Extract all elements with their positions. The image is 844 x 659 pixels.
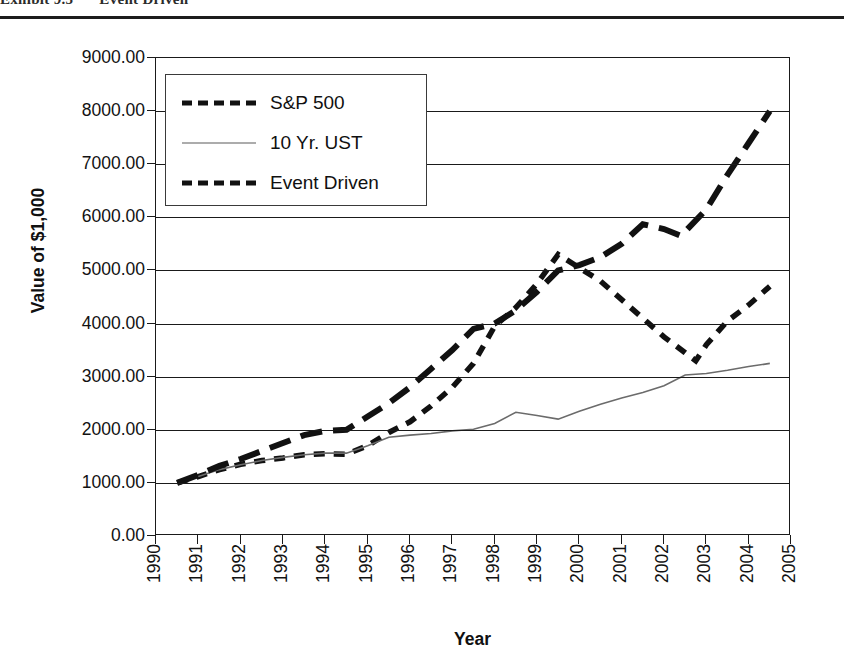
x-tick-label: 2004 xyxy=(737,544,763,583)
x-tick-mark xyxy=(155,535,156,544)
chart-page: Exhibit 9.5Event Driven 0.001000.002000.… xyxy=(0,0,844,659)
x-axis-title: Year xyxy=(155,629,790,650)
y-tick-label: 8000.00 xyxy=(30,100,145,121)
header-rule xyxy=(0,16,844,19)
gridline xyxy=(156,483,789,484)
x-tick-mark xyxy=(790,535,791,544)
legend-label-ust: 10 Yr. UST xyxy=(270,132,363,154)
x-tick-mark xyxy=(663,535,664,544)
x-tick-mark xyxy=(578,535,579,544)
x-tick-mark xyxy=(409,535,410,544)
chart-figure: 0.001000.002000.003000.004000.005000.006… xyxy=(0,22,844,659)
x-tick-mark xyxy=(240,535,241,544)
gridline xyxy=(156,377,789,378)
series-line-s-p-500 xyxy=(177,255,770,483)
y-tick-label: 2000.00 xyxy=(30,418,145,439)
x-tick-label: 1999 xyxy=(525,544,551,583)
x-tick-label: 1997 xyxy=(440,544,466,583)
series-line-10-yr-ust xyxy=(177,363,770,483)
gridline xyxy=(156,324,789,325)
x-tick-mark xyxy=(451,535,452,544)
legend-label-sp500: S&P 500 xyxy=(270,92,345,114)
x-tick-label: 2000 xyxy=(567,544,593,583)
exhibit-title: Event Driven xyxy=(99,0,188,7)
x-tick-label: 1991 xyxy=(186,544,212,583)
legend-swatch-sp500-icon xyxy=(182,96,256,110)
x-tick-label: 2001 xyxy=(610,544,636,583)
legend-item-sp500: S&P 500 xyxy=(166,83,426,123)
exhibit-header: Exhibit 9.5Event Driven xyxy=(0,0,844,11)
x-tick-label: 1993 xyxy=(271,544,297,583)
y-tick-label: 3000.00 xyxy=(30,365,145,386)
y-axis-title: Value of $1,000 xyxy=(28,151,49,351)
gridline xyxy=(156,430,789,431)
exhibit-label: Exhibit 9.5 xyxy=(0,0,73,7)
x-tick-label: 1998 xyxy=(483,544,509,583)
x-tick-label: 2005 xyxy=(779,544,805,583)
gridline xyxy=(156,217,789,218)
x-tick-label: 2003 xyxy=(694,544,720,583)
x-tick-mark xyxy=(621,535,622,544)
x-tick-label: 1992 xyxy=(229,544,255,583)
legend-swatch-event-driven-icon xyxy=(182,176,256,190)
gridline xyxy=(156,270,789,271)
legend-swatch-ust-icon xyxy=(182,136,256,150)
legend-item-ust: 10 Yr. UST xyxy=(166,123,426,163)
x-tick-label: 1995 xyxy=(356,544,382,583)
x-tick-label: 1990 xyxy=(144,544,170,583)
x-tick-mark xyxy=(494,535,495,544)
x-tick-label: 2002 xyxy=(652,544,678,583)
x-tick-mark xyxy=(705,535,706,544)
x-tick-mark xyxy=(536,535,537,544)
x-tick-mark xyxy=(282,535,283,544)
legend-label-event-driven: Event Driven xyxy=(270,172,379,194)
x-tick-mark xyxy=(324,535,325,544)
x-tick-label: 1994 xyxy=(313,544,339,583)
x-tick-label: 1996 xyxy=(398,544,424,583)
x-tick-mark xyxy=(197,535,198,544)
chart-legend: S&P 500 10 Yr. UST Event Driven xyxy=(165,74,427,206)
y-tick-label: 0.00 xyxy=(30,525,145,546)
legend-item-event-driven: Event Driven xyxy=(166,163,426,203)
y-tick-label: 9000.00 xyxy=(30,47,145,68)
x-tick-mark xyxy=(748,535,749,544)
x-tick-mark xyxy=(367,535,368,544)
y-tick-label: 1000.00 xyxy=(30,471,145,492)
